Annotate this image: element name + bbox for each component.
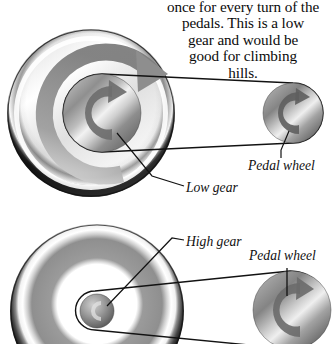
pedal-wheel-bottom	[253, 271, 331, 344]
high-gear-sprocket	[80, 294, 114, 328]
label-low-gear: Low gear	[186, 181, 238, 195]
label-pedal-wheel-bottom: Pedal wheel	[249, 249, 316, 263]
figure-canvas: once for every turn of the pedals. This …	[0, 0, 334, 344]
body-paragraph: once for every turn of the pedals. This …	[152, 0, 334, 81]
pedal-wheel-top	[263, 83, 323, 143]
label-high-gear: High gear	[186, 235, 242, 249]
label-pedal-wheel-top: Pedal wheel	[248, 159, 315, 173]
low-gear-sprocket	[63, 74, 141, 152]
